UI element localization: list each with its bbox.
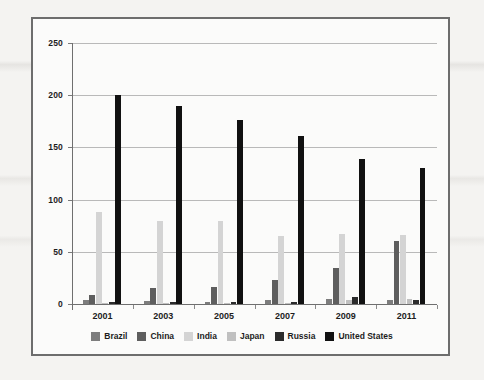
legend-item[interactable]: Japan [227, 331, 265, 341]
x-axis-label: 2003 [133, 311, 193, 321]
bar [407, 299, 413, 304]
bar [359, 159, 365, 304]
bar [420, 168, 426, 304]
legend-swatch-icon [137, 332, 146, 341]
bar [211, 287, 217, 304]
bar [237, 120, 243, 304]
bar [83, 300, 89, 304]
bar-chart: 050100150200250200120032005200720092011 [0, 0, 484, 380]
legend-swatch-icon [275, 332, 284, 341]
legend-label: India [197, 331, 217, 341]
bar [89, 295, 95, 304]
bar [115, 95, 121, 304]
y-axis-line [72, 43, 73, 310]
y-axis-label: 50 [30, 247, 63, 257]
y-axis-label: 200 [30, 90, 63, 100]
bar [272, 280, 278, 304]
bar [265, 300, 271, 304]
bar [231, 302, 237, 304]
x-axis-tick [194, 305, 195, 309]
bar [163, 303, 169, 304]
bar [102, 303, 108, 304]
x-axis-label: 2005 [194, 311, 254, 321]
gridline [72, 43, 437, 44]
bar [278, 236, 284, 304]
y-axis-label: 100 [30, 195, 63, 205]
x-axis-label: 2009 [316, 311, 376, 321]
legend-label: Brazil [104, 331, 127, 341]
legend-label: China [150, 331, 174, 341]
legend-label: United States [338, 331, 392, 341]
bar [339, 234, 345, 304]
x-axis-tick [133, 305, 134, 309]
legend-item[interactable]: Brazil [91, 331, 127, 341]
legend-label: Russia [288, 331, 316, 341]
y-axis-label: 150 [30, 142, 63, 152]
bar [176, 106, 182, 304]
bar [333, 268, 339, 305]
legend-item[interactable]: India [184, 331, 217, 341]
bar [387, 300, 393, 304]
bar [224, 303, 230, 304]
bar [218, 221, 224, 305]
bar [400, 235, 406, 304]
bar [285, 303, 291, 304]
legend-label: Japan [240, 331, 265, 341]
x-axis-tick [437, 305, 438, 309]
bar [326, 299, 332, 304]
bar [157, 221, 163, 305]
bar [150, 288, 156, 304]
x-axis-tick [376, 305, 377, 309]
bar [298, 136, 304, 304]
y-axis-label: 250 [30, 38, 63, 48]
x-axis-tick [255, 305, 256, 309]
legend-item[interactable]: China [137, 331, 174, 341]
legend-swatch-icon [184, 332, 193, 341]
gridline [72, 147, 437, 148]
gridline [72, 95, 437, 96]
legend-item[interactable]: United States [325, 331, 392, 341]
legend-item[interactable]: Russia [275, 331, 316, 341]
bar [109, 302, 115, 304]
chart-legend: BrazilChinaIndiaJapanRussiaUnited States [0, 331, 484, 341]
gridline [72, 252, 437, 253]
legend-swatch-icon [325, 332, 334, 341]
bar [413, 300, 419, 304]
x-axis-label: 2011 [377, 311, 437, 321]
bar [291, 302, 297, 304]
bar [352, 297, 358, 304]
bar [205, 302, 211, 304]
x-axis-label: 2001 [72, 311, 132, 321]
bar [96, 212, 102, 304]
bar [394, 241, 400, 304]
bar [170, 302, 176, 304]
bar [144, 301, 150, 304]
gridline [72, 200, 437, 201]
x-axis-tick [315, 305, 316, 309]
y-axis-label: 0 [30, 299, 63, 309]
bar [346, 300, 352, 304]
legend-swatch-icon [227, 332, 236, 341]
x-axis-label: 2007 [255, 311, 315, 321]
legend-swatch-icon [91, 332, 100, 341]
